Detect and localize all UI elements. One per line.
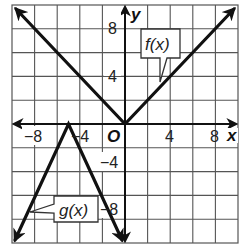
y-tick-label: 4 xyxy=(108,68,117,85)
origin-label: O xyxy=(107,127,120,146)
y-tick-label: 8 xyxy=(108,20,117,37)
x-tick-label: 4 xyxy=(165,128,174,145)
x-axis-label: x xyxy=(226,126,238,145)
x-tick-label: −8 xyxy=(24,128,42,145)
y-tick-label: −4 xyxy=(100,154,118,171)
coordinate-plane-chart: −8 −4 4 8 8 4 −4 −8 y x O f(x) g(x) xyxy=(0,0,244,251)
y-tick-label: −8 xyxy=(100,201,118,218)
f-of-x-label: f(x) xyxy=(145,35,170,54)
g-of-x-callout: g(x) xyxy=(30,196,98,222)
g-of-x-label: g(x) xyxy=(59,201,88,220)
x-tick-label: 8 xyxy=(210,128,219,145)
y-axis-label: y xyxy=(130,5,142,24)
x-tick-label: −4 xyxy=(71,128,89,145)
